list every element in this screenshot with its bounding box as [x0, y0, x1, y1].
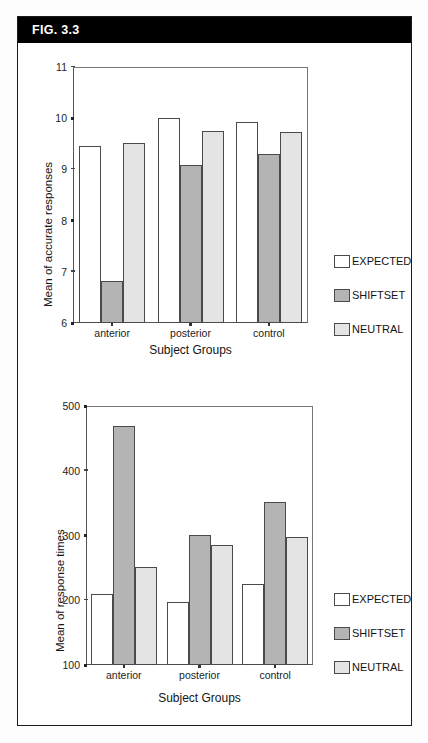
y-axis-tick-mark [84, 405, 87, 408]
y-axis-tick-mark [71, 117, 74, 120]
bar-anterior-shiftset [101, 281, 123, 323]
legend-label-expected: EXPECTED [352, 254, 411, 269]
y-axis-tick-mark [71, 219, 74, 222]
y-axis-tick-mark [71, 168, 75, 169]
y-axis-tick-label: 400 [46, 466, 80, 476]
bar-anterior-neutral [135, 567, 157, 665]
y-axis-tick-label: 500 [46, 401, 80, 411]
legend-label-expected: EXPECTED [352, 592, 411, 607]
bar-posterior-expected [167, 602, 189, 665]
y-axis-tick-mark [84, 599, 88, 600]
legend-label-neutral: NEUTRAL [352, 660, 403, 675]
x-axis-tick-label-control: control [235, 670, 315, 681]
bar-anterior-expected [91, 594, 113, 665]
x-axis-title: Subject Groups [100, 691, 300, 705]
y-axis-title: Mean of response times [54, 529, 66, 652]
bar-posterior-shiftset [189, 535, 211, 665]
legend-swatch-neutral [334, 661, 350, 674]
bar-anterior-shiftset [113, 426, 135, 665]
chart-response-times: 100200300400500anteriorposteriorcontrolM… [18, 367, 413, 727]
legend-swatch-shiftset [334, 289, 350, 302]
y-axis-tick-label: 11 [33, 62, 67, 72]
y-axis-tick-mark [84, 664, 87, 667]
bar-control-expected [242, 584, 264, 665]
y-axis-tick-mark [71, 66, 75, 67]
legend-swatch-shiftset [334, 627, 350, 640]
y-axis-tick-mark [84, 469, 88, 470]
x-axis-tick-label-posterior: posterior [151, 328, 231, 339]
y-axis-tick-label: 10 [33, 113, 67, 123]
bar-posterior-shiftset [180, 165, 202, 323]
legend-swatch-expected [334, 593, 350, 606]
bar-control-shiftset [258, 154, 280, 323]
x-axis-tick-label-control: control [229, 328, 309, 339]
bar-posterior-expected [158, 118, 180, 323]
x-axis-tick-label-anterior: anterior [72, 328, 152, 339]
x-axis-tick-mark [111, 323, 113, 326]
y-axis-tick-label: 6 [33, 318, 67, 328]
legend-swatch-neutral [334, 323, 350, 336]
legend-label-shiftset: SHIFTSET [352, 288, 405, 303]
bar-anterior-neutral [123, 143, 145, 323]
bar-control-neutral [286, 537, 308, 665]
bar-anterior-expected [79, 146, 101, 323]
x-axis-tick-mark [274, 665, 276, 668]
y-axis-tick-mark [71, 322, 74, 325]
x-axis-tick-label-anterior: anterior [84, 670, 164, 681]
x-axis-tick-mark [123, 665, 125, 668]
legend-label-neutral: NEUTRAL [352, 322, 403, 337]
x-axis-title: Subject Groups [91, 343, 291, 357]
y-axis-tick-label: 100 [46, 660, 80, 670]
bar-control-shiftset [264, 502, 286, 665]
bar-control-neutral [280, 132, 302, 323]
y-axis-tick-mark [84, 534, 87, 537]
x-axis-tick-mark [189, 323, 191, 326]
chart-accurate-responses: 67891011anteriorposteriorcontrolMean of … [18, 17, 413, 367]
figure-frame: FIG. 3.3 67891011anteriorposteriorcontro… [17, 16, 412, 726]
bar-posterior-neutral [211, 545, 233, 665]
legend-swatch-expected [334, 255, 350, 268]
x-axis-tick-label-posterior: posterior [160, 670, 240, 681]
legend-label-shiftset: SHIFTSET [352, 626, 405, 641]
x-axis-tick-mark [268, 323, 270, 326]
x-axis-tick-mark [198, 665, 200, 668]
y-axis-tick-mark [71, 270, 75, 271]
y-axis-title: Mean of accurate responses [42, 162, 54, 307]
bar-posterior-neutral [202, 131, 224, 323]
bar-control-expected [236, 122, 258, 323]
